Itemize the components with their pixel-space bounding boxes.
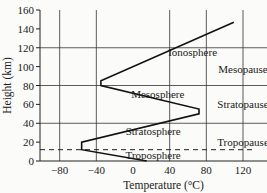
layer-label-mesosphere: Mesosphere (131, 88, 184, 100)
x-tick-label: −40 (88, 164, 106, 176)
y-axis-label: Height (km) (1, 57, 14, 114)
x-tick-label: 120 (235, 164, 252, 176)
x-tick-label: 40 (164, 164, 176, 176)
y-tick-label: 0 (29, 155, 35, 167)
y-tick-label: 20 (23, 136, 35, 148)
layer-label-stratosphere: Stratosphere (126, 125, 181, 137)
y-tick-label: 40 (23, 117, 35, 129)
x-tick-label: 80 (201, 164, 213, 176)
x-tick-label: 0 (130, 164, 136, 176)
x-axis-label: Temperature (°C) (123, 179, 204, 192)
layer-label-ionosphere: Ionosphere (168, 46, 217, 58)
layer-label-tropopause: Tropopause (217, 136, 267, 148)
y-tick-label: 60 (23, 98, 35, 110)
layer-label-troposphere: Troposphere (126, 149, 181, 161)
y-tick-label: 160 (18, 4, 35, 16)
y-tick-label: 100 (18, 61, 35, 73)
y-tick-label: 140 (18, 23, 35, 35)
layer-label-stratopause: Stratopause (217, 98, 267, 110)
y-tick-label: 120 (18, 42, 35, 54)
layer-label-mesopause: Mesopause (218, 63, 267, 75)
x-tick-label: −80 (51, 164, 69, 176)
atmosphere-temperature-chart: 020406080100120140160−80−4004080120Tempe… (0, 0, 267, 193)
y-tick-label: 80 (23, 80, 35, 92)
